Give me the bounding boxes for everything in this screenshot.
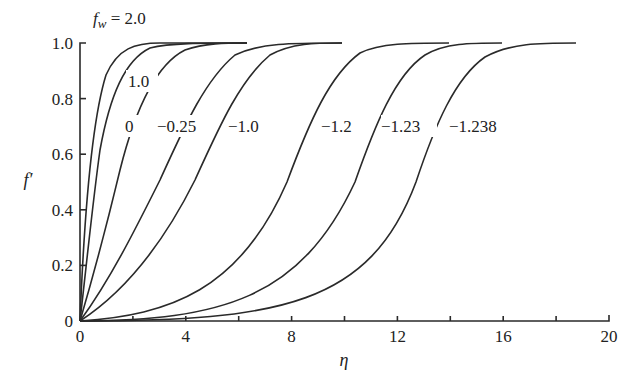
y-tick-labels: 0 0.2 0.4 0.6 0.8 1.0 bbox=[52, 34, 74, 331]
label-fw-neg1.23: −1.23 bbox=[381, 117, 420, 136]
label-fw-2.0: fw = 2.0 bbox=[93, 9, 146, 31]
curve-labels: fw = 2.0 1.0 0 −0.25 −1.0 −1.2 −1.23 −1.… bbox=[93, 9, 517, 137]
y-tick-label: 0 bbox=[65, 312, 74, 331]
x-tick-label: 0 bbox=[76, 327, 85, 346]
x-tick-label: 8 bbox=[287, 327, 296, 346]
curve-fw-1.0 bbox=[80, 43, 247, 321]
y-tick-label: 0.4 bbox=[52, 201, 74, 220]
x-tick-labels: 0 4 8 12 16 20 bbox=[76, 327, 618, 346]
label-fw-neg1.238: −1.238 bbox=[449, 117, 497, 136]
x-tick-label: 20 bbox=[601, 327, 618, 346]
chart: 0 0.2 0.4 0.6 0.8 1.0 0 4 8 12 16 20 η f… bbox=[0, 0, 635, 384]
y-tick-label: 0.8 bbox=[52, 90, 73, 109]
x-tick-label: 4 bbox=[182, 327, 191, 346]
label-fw-1.0: 1.0 bbox=[128, 72, 149, 91]
curve-fw-0 bbox=[80, 43, 247, 321]
x-tick-label: 12 bbox=[389, 327, 406, 346]
label-fw-neg1.0: −1.0 bbox=[228, 117, 259, 136]
x-tick-label: 16 bbox=[495, 327, 512, 346]
y-tick-label: 0.2 bbox=[52, 256, 73, 275]
y-tick-label: 1.0 bbox=[52, 34, 73, 53]
curve-fw-2.0 bbox=[80, 43, 247, 321]
y-tick-label: 0.6 bbox=[52, 145, 73, 164]
label-fw-0: 0 bbox=[125, 117, 134, 136]
y-axis-title: f′ bbox=[24, 170, 34, 190]
x-axis-title: η bbox=[340, 350, 349, 370]
label-fw-neg0.25: −0.25 bbox=[157, 117, 196, 136]
label-fw-neg1.2: −1.2 bbox=[321, 117, 352, 136]
y-ticks bbox=[80, 99, 86, 266]
